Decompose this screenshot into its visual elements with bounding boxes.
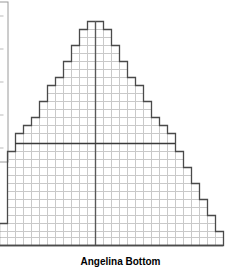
clipped-legend-box	[0, 2, 8, 162]
chart-caption: Angelina Bottom	[0, 256, 241, 267]
chart-background	[0, 0, 241, 270]
pyramid-figure: Angelina Bottom	[0, 0, 241, 270]
stepped-pyramid-chart	[0, 0, 241, 270]
